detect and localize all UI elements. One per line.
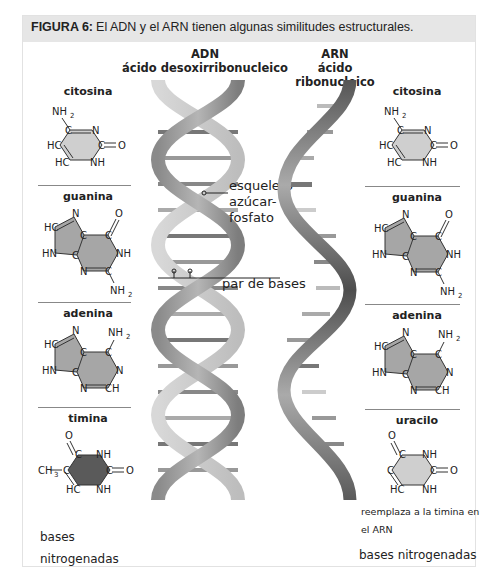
- svg-text:HC: HC: [374, 223, 389, 234]
- svg-text:C: C: [430, 465, 437, 476]
- svg-text:NH: NH: [422, 449, 437, 460]
- left-base-label-guanine: guanina: [28, 190, 148, 203]
- left-base-label-cytosine: citosina: [28, 85, 148, 98]
- svg-text:2: 2: [128, 291, 132, 299]
- svg-text:C: C: [402, 251, 409, 262]
- svg-text:HC: HC: [66, 484, 81, 495]
- svg-text:CH: CH: [105, 383, 120, 394]
- svg-text:2: 2: [126, 333, 130, 341]
- svg-text:C: C: [399, 449, 406, 460]
- svg-text:HC: HC: [44, 339, 59, 350]
- right-base-label-uracil: uracilo: [357, 414, 477, 427]
- svg-text:O: O: [450, 465, 458, 476]
- svg-text:NH: NH: [422, 484, 437, 495]
- svg-text:C: C: [435, 231, 442, 242]
- svg-text:N: N: [116, 365, 123, 376]
- svg-text:C: C: [106, 465, 113, 476]
- svg-text:NH: NH: [422, 157, 437, 168]
- right-divider-1: [365, 186, 460, 187]
- svg-text:N: N: [72, 208, 79, 219]
- left-divider-1: [38, 185, 131, 186]
- svg-text:C: C: [435, 267, 442, 278]
- right-footer: bases nitrogenadas: [359, 544, 477, 566]
- dna-subtitle: ácido desoxirribonucleico: [120, 61, 290, 75]
- svg-text:NH: NH: [438, 329, 453, 340]
- left-footer: bases nitrogenadas: [40, 526, 119, 570]
- svg-text:HC: HC: [387, 157, 402, 168]
- svg-text:C: C: [105, 347, 112, 358]
- left-base-label-adenine: adenina: [28, 307, 148, 320]
- left-footer-line2: nitrogenadas: [40, 548, 119, 570]
- svg-text:HC: HC: [47, 140, 62, 151]
- svg-text:O: O: [450, 140, 458, 151]
- svg-text:NH: NH: [384, 106, 399, 117]
- svg-text:C: C: [105, 230, 112, 241]
- svg-text:C: C: [402, 369, 409, 380]
- svg-text:HC: HC: [374, 341, 389, 352]
- right-base-label-cytosine: citosina: [357, 85, 477, 98]
- svg-text:HC: HC: [379, 140, 394, 151]
- right-divider-3: [365, 409, 460, 410]
- svg-text:HC: HC: [44, 222, 59, 233]
- svg-text:NH: NH: [116, 248, 131, 259]
- svg-text:N: N: [446, 367, 453, 378]
- rna-single-strand: [262, 80, 362, 500]
- svg-text:N: N: [424, 125, 431, 136]
- svg-text:NH: NH: [52, 106, 67, 117]
- svg-text:N: N: [80, 266, 87, 277]
- svg-text:C: C: [65, 125, 72, 136]
- svg-text:C: C: [98, 140, 105, 151]
- left-base-label-thymine: timina: [28, 412, 148, 425]
- backbone-pointer: [200, 190, 230, 196]
- dna-title: ADN ácido desoxirribonucleico: [120, 47, 290, 75]
- svg-text:HN: HN: [42, 248, 57, 259]
- svg-text:NH: NH: [440, 286, 455, 297]
- cytosine-structure-right: NH2 CN HCCO HCNH: [362, 100, 472, 180]
- uracil-structure-right: O CNH CCO HCNH: [362, 429, 472, 501]
- right-base-label-adenine: adenina: [357, 309, 477, 322]
- svg-text:HN: HN: [42, 365, 57, 376]
- svg-text:C: C: [435, 349, 442, 360]
- svg-text:C: C: [75, 449, 82, 460]
- svg-text:C: C: [410, 231, 417, 242]
- right-divider-2: [365, 304, 460, 305]
- right-base-label-guanine: guanina: [357, 191, 477, 204]
- guanine-structure-left: HCN CCO HNCNH NC NH2: [30, 205, 145, 300]
- svg-text:NH: NH: [110, 285, 125, 296]
- svg-text:C: C: [105, 266, 112, 277]
- left-divider-3: [38, 407, 131, 408]
- svg-text:O: O: [126, 465, 134, 476]
- adenine-structure-left: HCN CCNH2 HNCN NCH: [30, 322, 145, 402]
- svg-text:2: 2: [458, 292, 462, 300]
- svg-text:NH: NH: [96, 484, 111, 495]
- svg-text:C: C: [410, 349, 417, 360]
- svg-text:HN: HN: [372, 249, 387, 260]
- svg-text:O: O: [388, 430, 396, 441]
- adenine-structure-right: HCN CCNH2 HNCN NCH: [360, 324, 475, 404]
- svg-text:NH: NH: [446, 249, 461, 260]
- svg-text:2: 2: [456, 335, 460, 343]
- svg-text:N: N: [402, 209, 409, 220]
- svg-text:HC: HC: [55, 157, 70, 168]
- rna-title-text: ARN: [280, 47, 390, 61]
- svg-text:N: N: [80, 383, 87, 394]
- svg-text:C: C: [430, 140, 437, 151]
- left-divider-2: [38, 302, 131, 303]
- uracil-note-line1: reemplaza a la timina en: [361, 503, 479, 521]
- svg-text:HN: HN: [372, 367, 387, 378]
- svg-text:C: C: [80, 347, 87, 358]
- guanine-structure-right: HCN CCO HNCNH NC NH2: [360, 206, 475, 301]
- svg-text:O: O: [65, 430, 73, 441]
- svg-text:C: C: [72, 250, 79, 261]
- left-footer-line1: bases: [40, 526, 119, 548]
- uracil-note: reemplaza a la timina en el ARN: [361, 503, 479, 539]
- svg-text:N: N: [92, 125, 99, 136]
- svg-text:C: C: [80, 230, 87, 241]
- svg-text:C: C: [397, 125, 404, 136]
- figure-header: FIGURA 6:El ADN y el ARN tienen algunas …: [23, 16, 475, 42]
- svg-text:NH: NH: [96, 449, 111, 460]
- svg-text:2: 2: [70, 112, 74, 120]
- svg-text:C: C: [63, 465, 70, 476]
- svg-text:C: C: [387, 465, 394, 476]
- svg-text:CH: CH: [38, 465, 53, 476]
